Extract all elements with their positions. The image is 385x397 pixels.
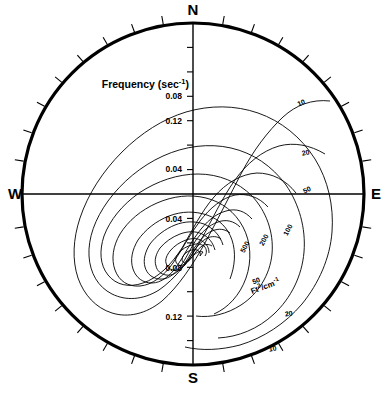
tick-label-down-004: 0.04 [165, 214, 182, 224]
compass-label-east: E [371, 185, 381, 202]
compass-label-south: S [188, 369, 198, 386]
contour-label-upper-20: 20 [301, 148, 310, 156]
contour-label-lower-20: 20 [284, 310, 293, 318]
polar-contour-figure: N S E W 0.12 0.08 0.04 0.04 0.08 0.12 Fr… [0, 0, 385, 397]
axis-title-text: Frequency (sec [102, 78, 179, 90]
compass-label-west: W [8, 185, 23, 202]
tick-label-up-004: 0.04 [165, 164, 182, 174]
contour-label-lower-10: 10 [268, 344, 277, 352]
axis-title-close: ) [186, 78, 190, 90]
axis-title: Frequency (sec-1) [102, 77, 189, 90]
contour-label-core-200: 200 [258, 233, 270, 247]
tick-label-up-012: 0.12 [165, 116, 182, 126]
contour-label-mid-50: 50 [302, 185, 312, 195]
contour-label-upper-10: 10 [296, 98, 306, 107]
tick-label-up-008: 0.08 [165, 91, 182, 101]
figure-canvas: N S E W 0.12 0.08 0.04 0.04 0.08 0.12 Fr… [0, 0, 385, 397]
units-superscript-minus1: -1 [272, 276, 280, 284]
tick-label-down-012: 0.12 [165, 312, 182, 322]
contour-level-10 [74, 101, 332, 350]
tick-label-down-008: 0.08 [165, 263, 182, 273]
axis-title-superscript: -1 [179, 77, 186, 86]
compass-label-north: N [188, 1, 199, 18]
contour-label-core-100: 100 [282, 223, 294, 237]
